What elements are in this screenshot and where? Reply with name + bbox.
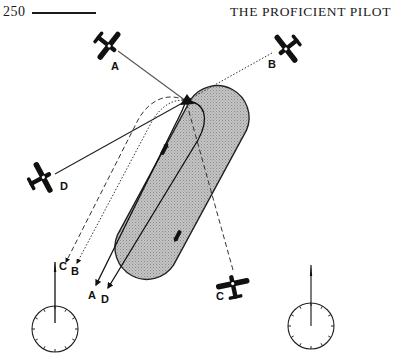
aircraft-d — [22, 158, 59, 199]
exit-label-a: A — [88, 289, 96, 301]
exit-label-d: D — [101, 293, 109, 305]
exit-label-b: B — [71, 265, 79, 277]
approach-diagram: A B C D C B A D — [0, 0, 395, 360]
heading-indicator-right — [288, 265, 334, 349]
aircraft-label-d: D — [60, 180, 68, 192]
aircraft-a — [87, 23, 127, 65]
approach-line-a — [118, 51, 186, 101]
shaded-area — [115, 86, 249, 280]
aircraft-label-c: C — [216, 290, 224, 302]
exit-label-c: C — [59, 260, 67, 272]
aircraft-label-b: B — [268, 58, 276, 70]
aircraft-label-a: A — [111, 60, 119, 72]
